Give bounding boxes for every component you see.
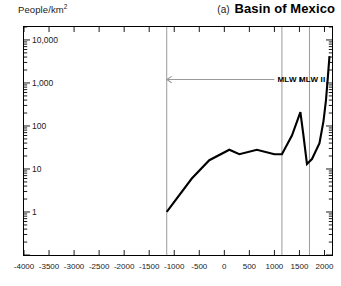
x-tick-label-12: 2000: [316, 262, 334, 271]
chart-title: (a) Basin of Mexico: [217, 1, 335, 16]
x-tick-label-0: -4000: [14, 262, 34, 271]
x-tick-label-1: -3500: [39, 262, 59, 271]
y-tick-label-1: 1,000: [32, 78, 53, 88]
y-tick-label-4: 1: [32, 207, 37, 217]
mlw-1-arrow-icon: [167, 76, 275, 82]
x-tick-label-4: -2000: [114, 262, 134, 271]
y-tick-label-3: 10: [32, 164, 41, 174]
x-tick-label-8: 0: [222, 262, 226, 271]
x-tick-label-5: -1500: [139, 262, 159, 271]
panel-letter: (a): [217, 4, 229, 15]
x-tick-label-9: 500: [243, 262, 256, 271]
x-axis-ticks: [24, 27, 324, 255]
x-tick-label-3: -2500: [89, 262, 109, 271]
x-tick-label-11: 1500: [291, 262, 309, 271]
x-tick-label-7: -500: [191, 262, 207, 271]
x-tick-label-2: -3000: [64, 262, 84, 271]
plot-area: [23, 26, 333, 256]
y-axis-label: People/km2: [18, 3, 68, 15]
y-tick-label-0: 10,000: [32, 35, 58, 45]
chart-figure: People/km2 (a) Basin of Mexico 10,0001,0…: [0, 0, 341, 286]
y-axis-label-text: People/km: [18, 4, 64, 15]
x-tick-label-10: 1000: [266, 262, 284, 271]
mlw-annotation-label-2: MLW II: [299, 75, 326, 84]
y-tick-label-2: 100: [32, 121, 46, 131]
panel-title: Basin of Mexico: [235, 1, 335, 16]
y-axis-label-superscript: 2: [64, 3, 68, 10]
plot-svg: [24, 27, 332, 255]
x-tick-label-6: -1000: [164, 262, 184, 271]
y-axis-ticks: [24, 27, 332, 255]
mlw-annotation-label-1: MLW I: [277, 75, 301, 84]
